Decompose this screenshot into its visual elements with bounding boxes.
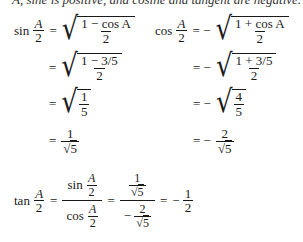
sqrt-expression: √ 1 − 3/5 2 — [61, 53, 122, 82]
half-angle-fraction: A 2 — [33, 187, 45, 215]
sin-half-angle-derivation: sin A 2 = √ 1 − cos A 2 — [14, 16, 135, 45]
radical-sign-icon: √ — [216, 50, 233, 85]
sqrt-expression: √ 1 + cos A 2 — [215, 16, 288, 45]
sqrt-icon: √ — [218, 141, 225, 156]
cos-label: cos — [155, 23, 172, 39]
half-angle-fraction: A 2 — [32, 17, 44, 45]
cos-half-angle-derivation: cos A 2 = − √ 1 + cos A 2 — [155, 16, 289, 45]
cos-row-4: = − 2 √5 — [188, 127, 234, 155]
sin-row-4: = 1 √5 — [44, 127, 79, 155]
radical-sign-icon: √ — [216, 86, 233, 121]
radical-sign-icon: √ — [215, 13, 232, 48]
sin-label: sin — [14, 23, 29, 39]
sin-row-2: = √ 1 − 3/5 2 — [44, 53, 122, 82]
cos-row-2: = − √ 1 + 3/5 2 — [188, 53, 276, 82]
radical-sign-icon: √ — [62, 13, 79, 48]
radical-sign-icon: √ — [61, 50, 78, 85]
result-fraction: 1 2 — [183, 187, 194, 215]
values-fraction: 1 √5 − 2 √5 — [120, 172, 155, 229]
sqrt-expression: √ 1 − cos A 2 — [62, 16, 135, 45]
half-angle-fraction: A 2 — [176, 17, 188, 45]
result-sign: − — [172, 193, 179, 209]
sin-row-1: sin A 2 = √ 1 − cos A 2 — [14, 16, 135, 45]
sqrt-expression: √ 4 5 — [216, 89, 246, 118]
sqrt-expression: √ 1 + 3/5 2 — [216, 53, 277, 82]
sin-over-cos-fraction: sin A 2 cos A 2 — [62, 172, 102, 229]
header-text-fragment: A, sine is positive, and cosine and tang… — [12, 0, 301, 8]
tan-half-angle-derivation: tan A 2 = sin A 2 cos A 2 = — [14, 172, 193, 229]
cos-row-3: = − √ 4 5 — [188, 89, 246, 118]
sqrt-expression: √ 1 5 — [61, 89, 91, 118]
radical-sign-icon: √ — [61, 86, 78, 121]
cos-row-1: cos A 2 = − √ 1 + cos A 2 — [155, 16, 289, 45]
tan-label: tan — [14, 193, 30, 209]
sin-row-3: = √ 1 5 — [44, 89, 91, 118]
